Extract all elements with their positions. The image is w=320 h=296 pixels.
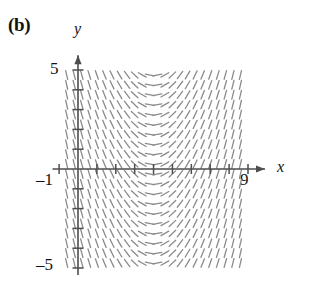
slope-mark xyxy=(73,140,75,149)
slope-mark xyxy=(201,130,204,138)
slope-mark xyxy=(117,229,122,237)
slope-mark xyxy=(216,110,219,119)
slope-mark xyxy=(169,250,176,256)
slope-mark xyxy=(81,219,83,228)
slope-mark xyxy=(73,219,75,228)
slope-mark xyxy=(177,210,182,217)
slope-mark xyxy=(103,71,106,79)
slope-mark xyxy=(201,110,204,118)
slope-mark xyxy=(201,81,204,89)
slope-mark xyxy=(110,170,114,178)
slope-mark xyxy=(88,71,91,80)
slope-mark xyxy=(95,140,98,148)
slope-mark xyxy=(131,201,138,207)
slope-mark xyxy=(169,72,176,78)
slope-mark xyxy=(185,239,190,247)
slope-mark xyxy=(66,100,68,109)
slope-mark xyxy=(124,190,129,197)
slope-mark xyxy=(209,180,212,188)
slope-mark xyxy=(73,130,75,139)
slope-mark xyxy=(124,259,129,266)
slope-mark xyxy=(66,90,68,99)
slope-mark xyxy=(110,130,114,138)
slope-mark xyxy=(117,101,122,109)
slope-mark xyxy=(193,229,197,237)
slope-mark xyxy=(161,182,169,186)
slope-mark xyxy=(73,259,75,268)
slope-mark xyxy=(209,100,212,108)
slope-mark xyxy=(117,150,122,158)
slope-mark xyxy=(153,74,162,76)
slope-mark xyxy=(153,233,162,235)
slope-mark xyxy=(153,134,162,136)
slope-mark xyxy=(239,219,241,228)
slope-mark xyxy=(81,110,83,119)
slope-mark xyxy=(138,152,146,156)
slope-mark xyxy=(177,81,182,88)
slope-mark xyxy=(209,190,212,198)
slope-mark xyxy=(66,80,68,89)
slope-mark xyxy=(161,231,169,235)
slope-mark xyxy=(73,100,75,109)
slope-mark xyxy=(177,131,182,138)
slope-mark xyxy=(138,211,146,215)
slope-mark xyxy=(153,104,162,106)
slope-mark xyxy=(193,120,197,128)
slope-mark xyxy=(185,200,190,208)
slope-mark xyxy=(117,111,122,119)
slope-mark xyxy=(124,131,129,138)
slope-mark xyxy=(95,259,98,267)
slope-mark xyxy=(95,130,98,138)
slope-mark xyxy=(103,91,106,99)
slope-mark xyxy=(73,249,75,258)
slope-mark xyxy=(110,259,114,267)
slope-mark xyxy=(66,170,68,179)
slope-mark xyxy=(103,150,106,158)
slope-mark xyxy=(117,220,122,228)
slope-mark xyxy=(224,81,226,90)
slope-mark xyxy=(232,229,234,238)
slope-mark xyxy=(110,81,114,89)
slope-mark xyxy=(185,180,190,188)
slope-mark xyxy=(73,120,75,129)
slope-mark xyxy=(138,73,146,77)
slope-mark xyxy=(193,200,197,208)
slope-mark xyxy=(95,239,98,247)
slope-mark xyxy=(117,71,122,79)
slope-mark xyxy=(131,111,138,117)
slope-mark xyxy=(81,249,83,258)
slope-mark xyxy=(193,130,197,138)
slope-mark xyxy=(124,91,129,98)
slope-mark xyxy=(193,219,197,227)
slope-mark xyxy=(209,130,212,138)
slope-mark xyxy=(177,121,182,128)
slope-mark xyxy=(224,199,226,208)
slope-mark xyxy=(138,122,146,126)
slope-mark xyxy=(81,71,83,80)
slope-mark xyxy=(66,71,68,80)
slope-mark xyxy=(103,249,106,257)
slope-mark xyxy=(88,160,91,169)
slope-mark xyxy=(88,239,91,248)
slope-mark xyxy=(239,71,241,80)
slope-mark xyxy=(185,101,190,109)
slope-mark xyxy=(131,92,138,98)
slope-mark xyxy=(66,120,68,129)
slope-mark xyxy=(177,240,182,247)
slope-mark xyxy=(224,259,226,268)
slope-mark xyxy=(216,150,219,159)
slope-mark xyxy=(153,84,162,86)
slope-mark xyxy=(81,140,83,149)
slope-mark xyxy=(117,180,122,188)
slope-mark xyxy=(169,260,176,266)
slope-mark xyxy=(161,132,169,136)
slope-mark xyxy=(161,192,169,196)
slope-mark xyxy=(73,71,75,80)
slope-mark xyxy=(193,81,197,89)
slope-mark xyxy=(103,180,106,188)
slope-mark xyxy=(232,179,234,188)
slope-mark xyxy=(117,81,122,89)
slope-mark xyxy=(232,249,234,258)
slope-mark xyxy=(232,130,234,139)
slope-mark xyxy=(66,219,68,228)
